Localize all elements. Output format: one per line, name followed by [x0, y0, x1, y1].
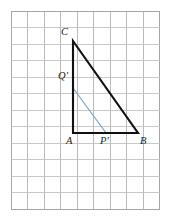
figure-container: C Q' A P' B: [0, 0, 180, 224]
vertex-label-p-prime: P': [100, 136, 109, 147]
grid-lines: [11, 11, 160, 209]
large-triangle-ABC: [73, 41, 138, 133]
vertex-label-c: C: [61, 27, 68, 38]
vertex-label-b: B: [140, 136, 147, 147]
vertex-label-q-prime: Q': [58, 71, 68, 82]
geometry-figure: [0, 0, 180, 224]
vertex-label-a: A: [66, 136, 73, 147]
